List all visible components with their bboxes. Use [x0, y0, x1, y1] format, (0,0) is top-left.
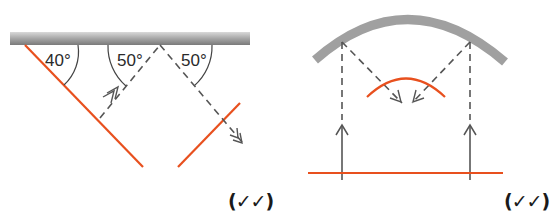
marks-left: (✓✓) — [228, 190, 273, 212]
angle-label-50-left: 50° — [117, 51, 143, 70]
marks-right: (✓✓) — [504, 190, 549, 212]
angle-label-50-right: 50° — [181, 51, 207, 70]
right-diagram — [308, 19, 505, 180]
plane-mirror — [10, 32, 250, 45]
left-diagram: 40° 50° 50° — [10, 32, 250, 167]
physics-reflection-diagram: 40° 50° 50° — [0, 0, 552, 224]
arrow-icon-up-right — [103, 87, 118, 103]
angle-label-40: 40° — [45, 51, 71, 70]
curved-mirror — [315, 19, 505, 62]
